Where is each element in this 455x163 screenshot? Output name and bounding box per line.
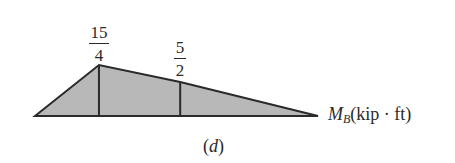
axis-label: MB(kip · ft) (328, 104, 411, 127)
peak-denominator: 4 (88, 47, 110, 64)
units-label: (kip · ft) (350, 104, 411, 124)
peak-numerator: 15 (88, 24, 110, 41)
mid-denominator: 2 (173, 62, 187, 79)
fraction-bar (174, 58, 186, 59)
mid-value-label: 5 2 (173, 39, 187, 79)
fraction-bar (89, 43, 109, 44)
influence-line-diagram (0, 0, 455, 163)
caption-close-paren: ) (218, 136, 224, 156)
peak-value-label: 15 4 (88, 24, 110, 64)
mid-numerator: 5 (173, 39, 187, 56)
moment-symbol: M (328, 104, 343, 124)
caption-letter: d (209, 136, 218, 156)
figure-caption: (d) (203, 136, 224, 157)
